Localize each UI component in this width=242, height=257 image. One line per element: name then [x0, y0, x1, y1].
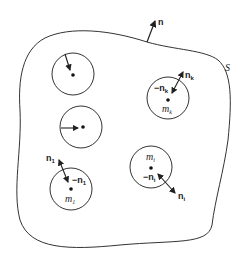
mass-1-label: m1 — [65, 193, 75, 205]
outward-normal-arrow — [147, 21, 155, 42]
mass-k-label: mk — [162, 103, 172, 115]
mass-i-label: mi — [146, 151, 155, 163]
inner-normal-i-label: −ni — [143, 172, 156, 183]
normal-k-label: nk — [185, 70, 195, 81]
sphere-1: n1 −n1 m1 — [46, 153, 92, 210]
surface-label: S — [225, 62, 230, 73]
closed-surface-S — [17, 31, 230, 248]
sphere-b — [60, 106, 102, 148]
sphere-k: nk −nk mk — [147, 70, 195, 119]
normal-i-label: ni — [178, 191, 186, 202]
gauss-law-diagram: n S n1 −n1 m1 nk −nk mk mi −ni ni — [0, 0, 242, 257]
inner-normal-k-label: −nk — [154, 83, 169, 94]
outward-normal-label: n — [158, 17, 164, 27]
sphere-i: mi −ni ni — [130, 146, 186, 202]
sphere-a — [52, 53, 94, 95]
inner-normal-1-label: −n1 — [72, 175, 87, 186]
normal-1-label: n1 — [46, 153, 56, 164]
